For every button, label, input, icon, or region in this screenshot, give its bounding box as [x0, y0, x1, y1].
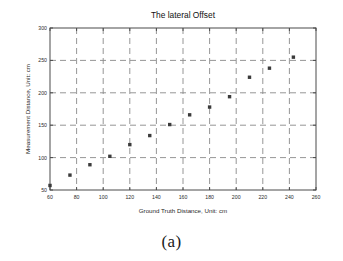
data-points — [48, 55, 295, 187]
data-point-marker — [68, 173, 71, 176]
figure-caption: (a) — [0, 222, 343, 261]
chart-title: The lateral Offset — [151, 10, 216, 20]
y-tick-label: 100 — [38, 155, 47, 161]
x-tick-label: 100 — [99, 194, 108, 200]
data-point-marker — [108, 155, 111, 158]
y-tick-label: 150 — [38, 122, 47, 128]
x-tick-label: 160 — [179, 194, 188, 200]
x-axis-label: Ground Truth Distance, Unit: cm — [139, 207, 227, 214]
x-tick-label: 220 — [258, 194, 267, 200]
x-tick-label: 80 — [74, 194, 80, 200]
tick-labels: 6080100120140160180200220240260501001502… — [38, 25, 320, 200]
figure-caption-text: (a) — [162, 232, 182, 252]
scatter-chart: 6080100120140160180200220240260501001502… — [0, 0, 343, 222]
y-tick-label: 50 — [41, 187, 47, 193]
data-point-marker — [188, 113, 191, 116]
x-tick-label: 240 — [285, 194, 294, 200]
data-point-marker — [148, 134, 151, 137]
data-point-marker — [128, 143, 131, 146]
y-axis-label: Measurement Distance, Unit: cm — [24, 64, 31, 154]
y-tick-label: 300 — [38, 25, 47, 31]
x-tick-label: 60 — [47, 194, 53, 200]
data-point-marker — [248, 76, 251, 79]
data-point-marker — [88, 163, 91, 166]
x-tick-label: 180 — [205, 194, 214, 200]
data-point-marker — [268, 66, 271, 69]
data-point-marker — [48, 184, 51, 187]
data-point-marker — [292, 55, 295, 58]
x-tick-label: 140 — [152, 194, 161, 200]
y-tick-label: 200 — [38, 90, 47, 96]
x-tick-label: 200 — [232, 194, 241, 200]
data-point-marker — [168, 123, 171, 126]
x-tick-label: 260 — [312, 194, 321, 200]
figure-container: 6080100120140160180200220240260501001502… — [0, 0, 343, 261]
chart-canvas: 6080100120140160180200220240260501001502… — [0, 0, 343, 222]
data-point-marker — [228, 95, 231, 98]
y-tick-label: 250 — [38, 57, 47, 63]
data-point-marker — [208, 105, 211, 108]
x-tick-label: 120 — [125, 194, 134, 200]
